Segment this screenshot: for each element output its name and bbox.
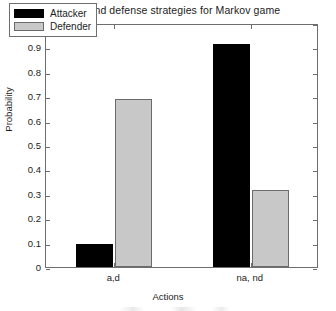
y-tick-label: 0.3	[28, 189, 41, 200]
y-tick-mark	[46, 123, 50, 124]
y-tick-label: 0.7	[28, 91, 41, 102]
y-tick-mark-right	[313, 49, 317, 50]
legend-item-attacker: Attacker	[14, 7, 91, 20]
y-tick-label: 0	[36, 262, 41, 273]
legend-swatch-attacker	[14, 9, 44, 18]
legend-label-attacker: Attacker	[50, 8, 87, 20]
x-tick-mark	[114, 25, 115, 29]
y-tick-mark	[46, 74, 50, 75]
y-axis-label: Probability	[3, 65, 14, 155]
y-tick-label: 0.5	[28, 140, 41, 151]
y-tick-mark-right	[313, 220, 317, 221]
y-tick-label: 0.8	[28, 67, 41, 78]
chart-legend: Attacker Defender	[9, 3, 97, 37]
y-tick-mark-right	[313, 171, 317, 172]
y-tick-label: 0.1	[28, 238, 41, 249]
cropped-caption-artifact	[120, 307, 230, 311]
y-tick-mark-right	[313, 147, 317, 148]
legend-label-defender: Defender	[50, 21, 91, 33]
y-tick-mark-right	[313, 74, 317, 75]
legend-item-defender: Defender	[14, 20, 91, 33]
bar-attacker-1	[213, 44, 250, 267]
y-tick-label: 0.4	[28, 164, 41, 175]
y-tick-mark-right	[313, 123, 317, 124]
plot-inner: 00.10.20.30.40.50.60.70.80.91	[46, 25, 317, 267]
y-tick-mark	[46, 171, 50, 172]
bar-defender-1	[252, 190, 289, 267]
y-tick-mark-right	[313, 269, 317, 270]
y-tick-mark	[46, 245, 50, 246]
y-tick-mark-right	[313, 245, 317, 246]
y-tick-mark	[46, 220, 50, 221]
y-tick-mark	[46, 147, 50, 148]
x-tick-label: na, nd	[237, 272, 263, 283]
y-tick-label: 0.6	[28, 116, 41, 127]
y-tick-mark	[46, 49, 50, 50]
legend-swatch-defender	[14, 22, 44, 31]
x-tick-mark	[251, 25, 252, 29]
y-tick-mark-right	[313, 98, 317, 99]
y-tick-mark	[46, 98, 50, 99]
y-tick-mark	[46, 196, 50, 197]
x-axis-label: Actions	[0, 291, 336, 302]
x-tick-label: a,d	[107, 272, 120, 283]
y-tick-mark-right	[313, 196, 317, 197]
y-tick-mark-right	[313, 25, 317, 26]
bar-attacker-0	[76, 244, 113, 267]
y-tick-mark	[46, 269, 50, 270]
y-tick-label: 0.9	[28, 42, 41, 53]
y-tick-label: 0.2	[28, 213, 41, 224]
bar-defender-0	[115, 99, 152, 267]
plot-area: 00.10.20.30.40.50.60.70.80.91	[45, 24, 318, 268]
